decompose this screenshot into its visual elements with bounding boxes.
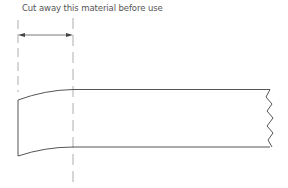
- material-bar: [18, 90, 273, 157]
- bar-break-wavy-edge: [266, 90, 273, 148]
- arrowhead-left-icon: [18, 33, 25, 37]
- dimension-arrow: [18, 33, 73, 37]
- bar-top-taper: [18, 90, 73, 101]
- material-diagram: [0, 0, 288, 188]
- bar-bottom-taper: [18, 147, 73, 156]
- arrowhead-right-icon: [66, 33, 73, 37]
